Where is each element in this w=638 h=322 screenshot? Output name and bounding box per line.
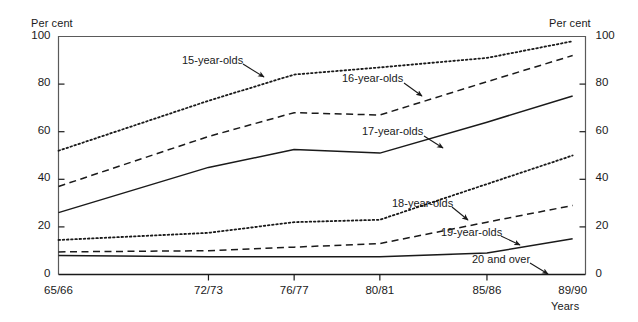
annotation-arrow xyxy=(243,64,264,77)
y-tick-label-left: 40 xyxy=(25,171,51,183)
series-label-16-year-olds: 16-year-olds xyxy=(342,72,403,84)
y-tick-label-right: 40 xyxy=(596,171,622,183)
y-tick-label-right: 20 xyxy=(596,219,622,231)
annotation-arrow xyxy=(530,263,548,274)
y-axis-title-left: Per cent xyxy=(31,17,73,29)
plot-area xyxy=(0,0,638,322)
series-label-19-year-olds: 19-year-olds xyxy=(441,226,502,238)
y-tick-label-right: 80 xyxy=(596,76,622,88)
x-tick-label: 80/81 xyxy=(353,284,407,296)
x-tick-label: 65/66 xyxy=(32,284,86,296)
data-series-line xyxy=(59,56,573,187)
series-label-15-year-olds: 15-year-olds xyxy=(182,54,243,66)
y-tick-label-right: 0 xyxy=(596,267,622,279)
data-series-group xyxy=(59,41,573,256)
x-tick-label: 89/90 xyxy=(546,284,600,296)
x-axis-title: Years xyxy=(551,300,579,312)
y-tick-label-right: 60 xyxy=(596,124,622,136)
data-series-line xyxy=(59,41,573,150)
series-label-18-year-olds: 18-year-olds xyxy=(392,197,453,209)
y-tick-label-right: 100 xyxy=(596,29,622,41)
x-tick-label: 85/86 xyxy=(460,284,514,296)
annotation-arrow xyxy=(452,207,468,220)
x-tick-label: 72/73 xyxy=(181,284,235,296)
axis-ticks xyxy=(59,84,586,280)
x-tick-label: 76/77 xyxy=(267,284,321,296)
annotation-arrows xyxy=(243,64,548,274)
series-label-17-year-olds: 17-year-olds xyxy=(362,125,423,137)
chart-figure: Per cent Per cent Years 0020204040606080… xyxy=(0,0,638,322)
y-tick-label-left: 0 xyxy=(25,267,51,279)
series-label-20-and-over: 20 and over xyxy=(472,253,530,265)
y-tick-label-left: 80 xyxy=(25,76,51,88)
y-tick-label-left: 60 xyxy=(25,124,51,136)
y-tick-label-left: 20 xyxy=(25,219,51,231)
annotation-arrow xyxy=(404,83,422,96)
annotation-arrow xyxy=(501,236,520,245)
y-axis-title-right: Per cent xyxy=(549,17,591,29)
y-tick-label-left: 100 xyxy=(25,29,51,41)
